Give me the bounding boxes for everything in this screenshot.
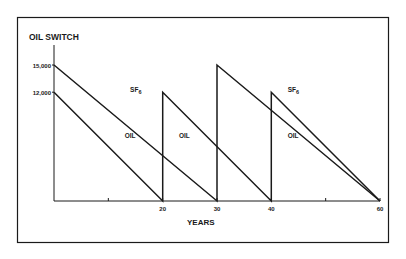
y-tick-labels: 15,00012,000 <box>33 63 54 96</box>
x-tick-label: 20 <box>159 206 166 212</box>
series-label-oil: OIL <box>125 132 136 139</box>
series-label-oil: OIL <box>288 132 299 139</box>
x-tick-label: 60 <box>377 206 384 212</box>
y-tick-label: 12,000 <box>33 90 52 96</box>
series-label-sf6: SF6 <box>130 86 141 95</box>
chart-title: OIL SWITCH <box>29 32 79 42</box>
series-lines <box>54 65 380 201</box>
series-label-oil: OIL <box>179 132 190 139</box>
x-axis-label: YEARS <box>187 218 215 227</box>
x-ticks: 20304060 <box>108 198 384 212</box>
x-tick-label: 30 <box>214 206 221 212</box>
x-tick-label: 40 <box>268 206 275 212</box>
y-tick-label: 15,000 <box>33 63 52 69</box>
series-line-sf6 <box>54 65 380 201</box>
chart-frame <box>18 18 389 243</box>
series-label-sf6: SF6 <box>288 86 299 95</box>
chart: OIL SWITCH 15,00012,000 20304060 SF6OILO… <box>0 0 406 259</box>
